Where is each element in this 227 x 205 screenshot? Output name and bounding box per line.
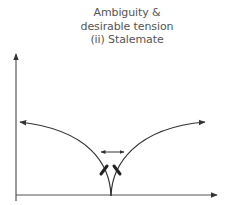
left-diverging-curve bbox=[20, 122, 111, 196]
right-diverging-curve bbox=[111, 122, 205, 196]
diagram-canvas bbox=[0, 0, 227, 205]
